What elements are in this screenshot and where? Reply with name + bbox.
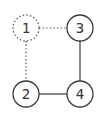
node-4: 4 bbox=[67, 81, 93, 107]
node-4-label: 4 bbox=[76, 86, 84, 102]
node-3-label: 3 bbox=[76, 20, 84, 36]
node-3: 3 bbox=[67, 15, 93, 41]
graph-diagram: 1 3 2 4 bbox=[0, 0, 100, 116]
node-1-label: 1 bbox=[22, 20, 30, 36]
node-1: 1 bbox=[13, 15, 39, 41]
node-2-label: 2 bbox=[22, 86, 30, 102]
node-2: 2 bbox=[13, 81, 39, 107]
